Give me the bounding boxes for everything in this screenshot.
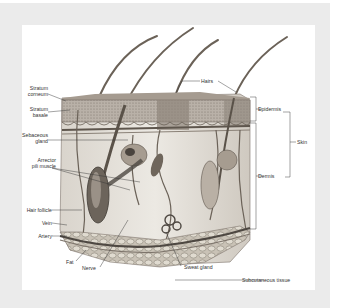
- label-hairs: Hairs: [201, 78, 213, 84]
- label-subcutaneous-tissue: Subcutaneous tissue: [242, 277, 290, 283]
- label-dermis: Dermis: [258, 173, 274, 179]
- label-stratum-corneum-line2: corneum: [18, 91, 48, 97]
- label-stratum-basale-line2: basale: [18, 112, 48, 118]
- label-fat: Fat: [66, 259, 74, 265]
- skin-cross-section-illustration: [0, 0, 342, 308]
- label-artery: Artery: [14, 233, 52, 239]
- label-hair-follicle: Hair follicle: [14, 207, 52, 213]
- label-arrector-pili-line2: pili muscle: [16, 163, 56, 169]
- label-nerve: Nerve: [82, 265, 96, 271]
- label-epidermis: Epidermis: [258, 106, 281, 112]
- label-sebaceous-gland-line2: gland: [16, 138, 48, 144]
- label-sweat-gland: Sweat gland: [184, 264, 213, 270]
- label-skin: Skin: [297, 139, 307, 145]
- label-vein: Vein: [14, 220, 52, 226]
